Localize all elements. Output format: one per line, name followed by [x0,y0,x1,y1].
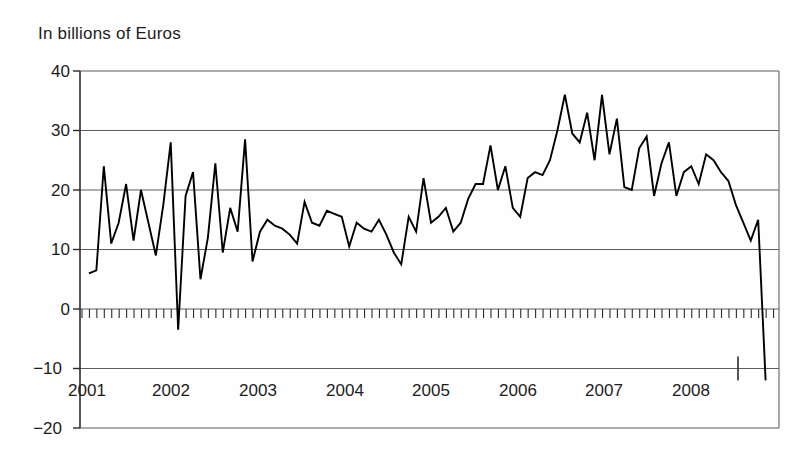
gridlines [73,71,779,428]
y-tick-label-neg10: −10 [14,359,62,379]
x-tick-label-2001: 2001 [57,381,117,401]
x-tick-label-2004: 2004 [315,381,375,401]
data-series-line [89,95,766,381]
x-tick-label-2003: 2003 [228,381,288,401]
y-tick-label-neg20: −20 [14,419,62,439]
y-tick-label-30: 30 [22,121,70,141]
y-tick-label-0: 0 [22,300,70,320]
y-tick-label-40: 40 [22,62,70,82]
monthly-tick-marks [82,309,774,318]
x-tick-label-2005: 2005 [401,381,461,401]
y-tick-label-20: 20 [22,181,70,201]
x-tick-label-2006: 2006 [488,381,548,401]
chart-figure: In billions of Euros 40 30 20 10 0 −10 −… [0,0,808,455]
x-tick-label-2002: 2002 [141,381,201,401]
x-tick-label-2007: 2007 [574,381,634,401]
x-tick-label-2008: 2008 [661,381,721,401]
y-tick-label-10: 10 [22,240,70,260]
